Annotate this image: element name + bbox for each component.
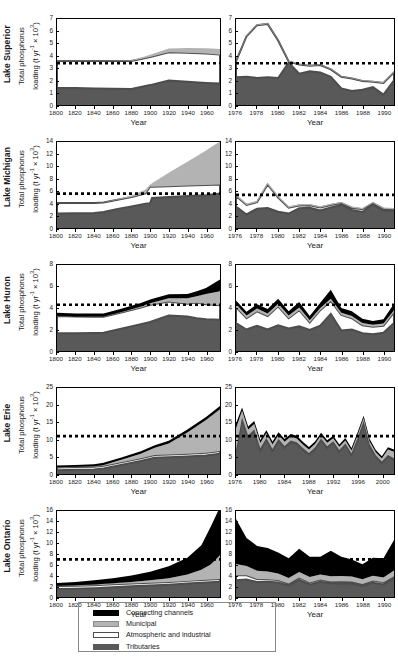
x-tick-label: 1980 xyxy=(271,232,285,239)
x-tick-mark xyxy=(75,229,76,232)
stacked-area-ontario-historical xyxy=(57,511,220,597)
y-tick-label: 2 xyxy=(49,327,53,333)
x-tick-label: 1960 xyxy=(200,232,214,239)
x-tick-mark xyxy=(235,229,236,232)
x-tick-mark xyxy=(188,598,189,601)
x-tick-label: 1982 xyxy=(292,601,306,608)
x-tick-mark xyxy=(235,598,236,601)
y-axis-label: Total phosphorusloading (t yr-1 × 103) xyxy=(16,0,46,116)
x-tick-label: 2000 xyxy=(376,478,390,485)
y-tick-mark xyxy=(235,81,238,82)
x-tick-label: 1900 xyxy=(143,109,157,116)
y-tick-label: 12 xyxy=(225,151,232,157)
y-tick-label: 4 xyxy=(49,53,53,59)
y-tick-mark xyxy=(56,565,59,566)
x-tick-mark xyxy=(207,598,208,601)
y-tick-mark xyxy=(235,18,238,19)
legend: Connecting channelsMunicipalAtmospheric … xyxy=(78,602,276,652)
x-tick-label: 1840 xyxy=(87,355,101,362)
x-tick-mark xyxy=(207,475,208,478)
x-tick-label: 1982 xyxy=(292,355,306,362)
x-tick-mark xyxy=(169,475,170,478)
x-tick-mark xyxy=(207,229,208,232)
y-tick-label: 4 xyxy=(228,573,232,579)
x-tick-mark xyxy=(363,106,364,109)
x-tick-mark xyxy=(131,352,132,355)
x-tick-mark xyxy=(235,475,236,478)
x-tick-mark xyxy=(342,598,343,601)
x-tick-mark xyxy=(256,598,257,601)
x-tick-mark xyxy=(75,598,76,601)
x-tick-mark xyxy=(358,475,359,478)
x-tick-label: 1840 xyxy=(87,232,101,239)
y-tick-label: 5 xyxy=(228,454,232,460)
y-tick-label: 7 xyxy=(228,15,232,21)
x-tick-mark xyxy=(56,106,57,109)
x-tick-label: 1990 xyxy=(377,355,391,362)
x-tick-label: 1986 xyxy=(335,355,349,362)
x-tick-mark xyxy=(278,229,279,232)
x-tick-label: 1940 xyxy=(181,109,195,116)
x-tick-label: 1986 xyxy=(335,109,349,116)
y-tick-label: 5 xyxy=(49,40,53,46)
x-tick-mark xyxy=(131,475,132,478)
y-tick-label: 2 xyxy=(228,327,232,333)
x-tick-label: 1960 xyxy=(200,355,214,362)
y-tick-mark xyxy=(56,93,59,94)
y-tick-label: 6 xyxy=(228,283,232,289)
x-tick-label: 1984 xyxy=(313,355,327,362)
y-tick-label: 4 xyxy=(228,305,232,311)
y-tick-label: 8 xyxy=(228,551,232,557)
chart-panel-superior-historical: 0123456718001820184018601880190019201940… xyxy=(56,18,221,106)
x-tick-label: 1860 xyxy=(106,232,120,239)
area-connecting-channels-ontario-modern xyxy=(236,519,394,579)
y-tick-mark xyxy=(235,532,238,533)
x-tick-mark xyxy=(299,106,300,109)
y-tick-mark xyxy=(235,179,238,180)
legend-label: Tributaries xyxy=(126,643,160,651)
x-tick-mark xyxy=(278,598,279,601)
x-tick-label: 1880 xyxy=(125,355,139,362)
chart-panel-superior-modern: 0123456719761978198019821984198619881990… xyxy=(235,18,395,106)
stacked-area-superior-historical xyxy=(57,19,220,105)
x-tick-label: 1976 xyxy=(228,109,242,116)
y-tick-label: 15 xyxy=(225,419,232,425)
x-tick-mark xyxy=(150,106,151,109)
y-tick-label: 6 xyxy=(228,188,232,194)
x-tick-label: 1940 xyxy=(181,232,195,239)
x-tick-label: 1800 xyxy=(49,232,63,239)
x-tick-label: 1960 xyxy=(200,478,214,485)
x-tick-label: 1984 xyxy=(277,478,291,485)
x-tick-mark xyxy=(235,106,236,109)
legend-swatch-tributaries xyxy=(93,644,119,650)
y-tick-mark xyxy=(235,457,238,458)
x-tick-label: 1982 xyxy=(292,109,306,116)
x-tick-mark xyxy=(131,229,132,232)
y-tick-mark xyxy=(56,576,59,577)
y-tick-mark xyxy=(56,191,59,192)
x-tick-label: 1980 xyxy=(271,109,285,116)
y-tick-label: 6 xyxy=(49,283,53,289)
x-tick-mark xyxy=(188,229,189,232)
y-tick-mark xyxy=(56,154,59,155)
x-tick-mark xyxy=(94,598,95,601)
lake-name-label: Lake Ontario xyxy=(0,486,16,606)
y-tick-mark xyxy=(56,141,59,142)
y-tick-mark xyxy=(235,286,238,287)
plot-area-superior-historical xyxy=(56,18,221,106)
chart-panel-michigan-historical: 0246810121418001820184018601880190019201… xyxy=(56,141,221,229)
y-tick-mark xyxy=(235,264,238,265)
y-tick-label: 8 xyxy=(49,551,53,557)
y-tick-mark xyxy=(56,204,59,205)
y-tick-label: 4 xyxy=(49,305,53,311)
y-tick-label: 12 xyxy=(46,529,53,535)
x-tick-mark xyxy=(169,229,170,232)
stacked-area-michigan-modern xyxy=(236,142,394,228)
x-tick-mark xyxy=(384,598,385,601)
plot-area-erie-modern xyxy=(235,387,395,475)
x-tick-label: 1920 xyxy=(162,355,176,362)
lake-row-lake-michigan: Lake MichiganTotal phosphorusloading (t … xyxy=(0,133,398,253)
x-tick-label: 1960 xyxy=(200,109,214,116)
x-tick-mark xyxy=(309,475,310,478)
y-tick-label: 5 xyxy=(228,40,232,46)
